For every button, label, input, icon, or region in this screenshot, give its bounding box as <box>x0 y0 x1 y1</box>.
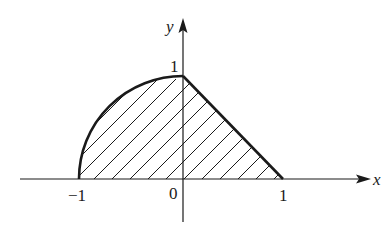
x-tick-neg-one: −1 <box>68 186 86 205</box>
line-boundary <box>183 76 283 179</box>
region-diagram: y x 1 0 −1 1 <box>0 0 381 226</box>
y-axis-label: y <box>164 17 174 36</box>
y-tick-one: 1 <box>170 57 179 76</box>
x-axis-label: x <box>372 170 381 189</box>
arc-boundary <box>79 76 183 179</box>
hatching <box>40 79 374 179</box>
origin-label: 0 <box>169 184 178 203</box>
x-tick-one: 1 <box>279 186 288 205</box>
